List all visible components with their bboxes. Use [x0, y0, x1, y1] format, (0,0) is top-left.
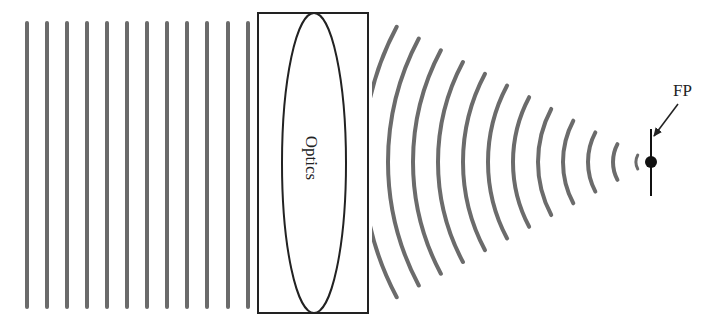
fp-arrow-icon: [654, 104, 678, 136]
focal-point-marker: FP: [645, 81, 692, 196]
converging-wavefront: [563, 121, 573, 204]
converging-wavefront: [538, 109, 551, 215]
converging-wavefront: [613, 144, 617, 180]
plane-wavefronts: [27, 23, 248, 307]
converging-wavefront: [438, 62, 463, 262]
converging-wavefront: [513, 97, 529, 227]
converging-wavefront: [588, 132, 595, 191]
focusing-diagram: Optics FP: [0, 0, 711, 332]
fp-label: FP: [673, 81, 692, 100]
converging-wavefronts: [363, 27, 638, 297]
converging-wavefront: [463, 74, 485, 251]
converging-wavefront: [488, 85, 507, 238]
focal-point-dot: [645, 156, 657, 168]
optics-box: Optics: [258, 13, 368, 313]
optics-label: Optics: [302, 136, 321, 180]
converging-wavefront: [636, 155, 638, 169]
